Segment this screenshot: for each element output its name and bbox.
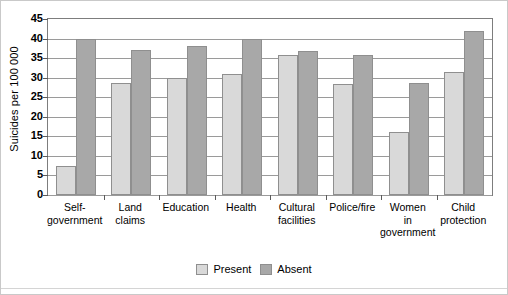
x-axis-category-label-line: protection — [436, 214, 492, 227]
y-axis-tick — [43, 117, 48, 118]
y-axis-tick — [43, 97, 48, 98]
y-axis-tick-label: 5 — [17, 168, 43, 180]
x-axis-tick — [104, 195, 105, 200]
legend-swatch-present-icon — [196, 264, 208, 275]
bar-absent — [131, 50, 151, 195]
x-axis-category-label: Health — [214, 201, 270, 214]
x-axis-category-label: Self-government — [47, 201, 103, 226]
x-axis-tick — [381, 195, 382, 200]
y-axis-tick-label: 30 — [17, 71, 43, 83]
x-axis-category-label-line: Self- — [47, 201, 103, 214]
x-axis-category-label: Education — [158, 201, 214, 214]
bar-absent — [242, 39, 262, 195]
y-axis-tick — [43, 58, 48, 59]
y-axis-tick-label: 0 — [17, 188, 43, 200]
bar-absent — [353, 55, 373, 195]
legend-item-present: Present — [196, 263, 251, 275]
x-axis-category-label-line: government — [47, 214, 103, 227]
x-axis-category-label: Police/fire — [325, 201, 381, 214]
bar-present — [222, 74, 242, 195]
gridline — [48, 39, 492, 40]
y-axis-tick — [43, 195, 48, 196]
x-axis-category-label-line: Land — [103, 201, 159, 214]
plot-area — [47, 18, 493, 196]
x-axis-tick — [159, 195, 160, 200]
x-axis-category-label-line: Women — [380, 201, 436, 214]
bar-present — [278, 55, 298, 195]
x-axis-tick — [215, 195, 216, 200]
y-axis-tick-label: 20 — [17, 110, 43, 122]
y-axis-tick-label: 15 — [17, 129, 43, 141]
x-axis-tick — [270, 195, 271, 200]
x-axis-category-label-line: claims — [103, 214, 159, 227]
y-axis-tick — [43, 39, 48, 40]
bar-absent — [76, 39, 96, 195]
x-axis-category-label-line: Child — [436, 201, 492, 214]
x-axis-category-label: Culturalfacilities — [269, 201, 325, 226]
x-axis-category-label-line: Police/fire — [325, 201, 381, 214]
y-axis-tick-label: 45 — [17, 12, 43, 24]
x-axis-category-label: Womeningovernment — [380, 201, 436, 239]
y-axis-tick — [43, 156, 48, 157]
legend-label: Absent — [277, 263, 311, 275]
bar-present — [167, 78, 187, 195]
y-axis-tick — [43, 175, 48, 176]
legend-label: Present — [213, 263, 251, 275]
x-axis-tick — [437, 195, 438, 200]
bar-absent — [464, 31, 484, 195]
legend-swatch-absent-icon — [260, 264, 272, 275]
x-axis-category-label-line: Health — [214, 201, 270, 214]
x-axis-category-label-line: Cultural — [269, 201, 325, 214]
bar-present — [333, 84, 353, 195]
y-axis-tick — [43, 19, 48, 20]
bar-absent — [298, 51, 318, 195]
y-axis-tick-label: 25 — [17, 90, 43, 102]
y-axis-tick-label: 10 — [17, 149, 43, 161]
gridline — [48, 58, 492, 59]
x-axis-category-label-line: in — [380, 214, 436, 227]
y-axis-tick — [43, 136, 48, 137]
bar-present — [389, 132, 409, 195]
bar-present — [111, 83, 131, 195]
chart-legend: PresentAbsent — [1, 263, 507, 275]
bar-present — [444, 72, 464, 195]
x-axis-category-labels: Self-governmentLandclaimsEducationHealth… — [47, 201, 493, 249]
x-axis-category-label-line: government — [380, 226, 436, 239]
legend-item-absent: Absent — [260, 263, 311, 275]
bar-chart-figure: Suicides per 100 000 051015202530354045 … — [0, 0, 508, 295]
x-axis-category-label: Childprotection — [436, 201, 492, 226]
bar-present — [56, 166, 76, 195]
y-axis-tick-labels: 051015202530354045 — [13, 18, 43, 196]
y-axis-tick-label: 35 — [17, 51, 43, 63]
x-axis-tick — [326, 195, 327, 200]
bar-absent — [187, 46, 207, 195]
gridline — [48, 78, 492, 79]
y-axis-tick — [43, 78, 48, 79]
y-axis-tick-label: 40 — [17, 32, 43, 44]
x-axis-category-label-line: Education — [158, 201, 214, 214]
bar-absent — [409, 83, 429, 195]
bottom-divider — [1, 288, 507, 289]
x-axis-category-label-line: facilities — [269, 214, 325, 227]
x-axis-category-label: Landclaims — [103, 201, 159, 226]
